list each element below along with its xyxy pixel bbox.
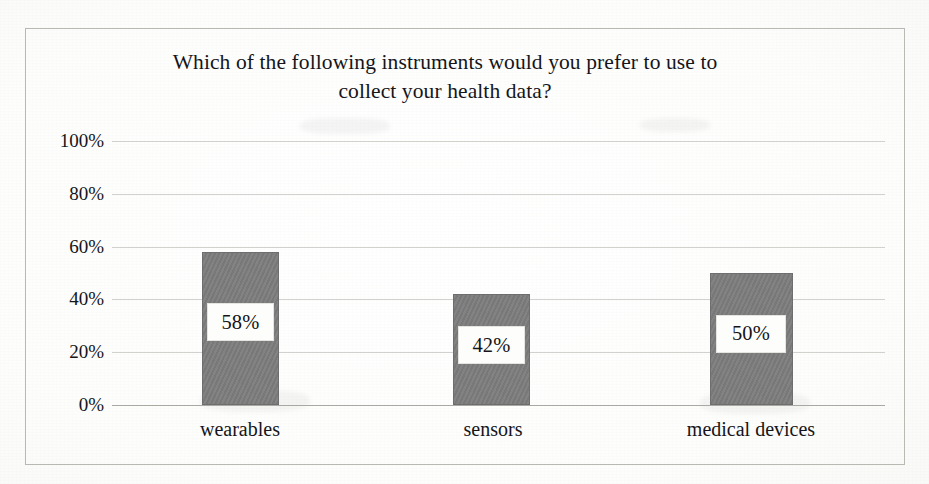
gridline-60	[112, 247, 885, 248]
bar-value-label-wearables: 58%	[207, 303, 274, 341]
gridline-100	[112, 141, 885, 142]
chart-title: Which of the following instruments would…	[95, 48, 795, 106]
y-axis: 100% 80% 60% 40% 20% 0%	[6, 141, 104, 405]
y-tick-label: 100%	[14, 131, 104, 150]
chart-title-line2: collect your health data?	[338, 79, 551, 103]
x-tick-label-wearables: wearables	[142, 418, 338, 440]
y-tick-label: 60%	[14, 237, 104, 256]
bar-value-label-sensors: 42%	[458, 326, 525, 364]
y-tick-label: 20%	[14, 342, 104, 361]
bar-value-label-medical-devices: 50%	[716, 315, 786, 353]
y-tick-label: 0%	[14, 395, 104, 414]
chart-title-line1: Which of the following instruments would…	[173, 50, 718, 74]
gridline-0-baseline	[112, 405, 885, 406]
x-tick-label-medical-devices: medical devices	[653, 418, 849, 440]
y-tick-label: 40%	[14, 289, 104, 308]
x-tick-label-sensors: sensors	[395, 418, 591, 440]
gridline-80	[112, 194, 885, 195]
y-tick-label: 80%	[14, 184, 104, 203]
plot-area: 58% 42% 50%	[112, 141, 885, 405]
